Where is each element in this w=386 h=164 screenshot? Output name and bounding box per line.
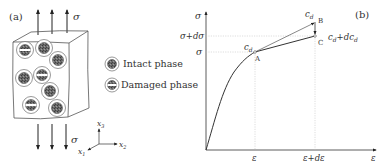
stress-bottom-label: σ [71,134,79,145]
legend-damaged-icon [105,78,119,92]
inclusion-damaged [23,97,40,114]
axis-x2-label: x2 [119,140,126,150]
axis-x3-label: x3 [97,119,104,129]
legend-damaged-label: Damaged phase [121,79,198,90]
point-c-label: C [318,39,323,47]
inclusion-damaged [17,42,34,59]
inclusion-intact [50,52,67,69]
x-axis-label: ε [371,153,376,163]
panel-a-label: (a) [9,11,23,22]
inclusion-damaged [34,67,51,84]
legend: Intact phase Damaged phase [105,57,198,92]
coordinate-axes [88,129,117,150]
inclusion-intact [36,40,53,57]
bottom-stress-arrows [38,124,66,149]
cd-label-a: cd [244,42,253,53]
guide-lines [206,36,315,150]
inclusion-intact [49,100,66,117]
cd-plus-dcd-label: cd+dcd [328,32,358,43]
panel-a: (a) σ [9,10,198,157]
y-axis-label: σ [195,11,202,21]
point-b-label: B [318,17,323,25]
inclusion-intact [42,83,59,100]
point-a-label: A [254,55,261,63]
panel-b: (b) σ σ+dσ σ ε ε+dε ε A B [180,9,376,163]
figure: (a) σ [0,0,386,164]
axis-x1-label: x1 [78,147,85,157]
stress-strain-curve [206,36,315,150]
x-tick-epsilon-plus: ε+dε [303,153,325,163]
point-a-marker [254,51,257,54]
stress-top-label: σ [73,11,81,22]
point-c-marker [314,35,317,38]
legend-intact-label: Intact phase [123,58,183,69]
cd-label-b: cd [305,9,314,20]
elastic-predictor-line [255,23,314,52]
y-tick-sigma-plus: σ+dσ [180,31,204,41]
inclusion-intact [16,70,33,87]
legend-intact-icon [105,57,119,71]
y-tick-sigma: σ [196,47,203,57]
x-tick-epsilon: ε [252,153,257,163]
panel-b-label: (b) [355,9,369,20]
